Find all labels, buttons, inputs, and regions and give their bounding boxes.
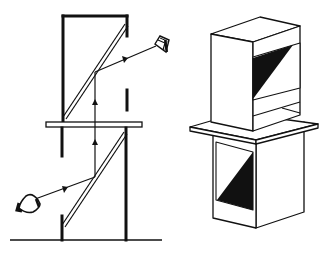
- diagram-canvas: Periscope mechanism: schematic cross-sec…: [0, 0, 335, 253]
- upper-box-left-face: [211, 34, 253, 131]
- arrow-lower-icon: [62, 186, 68, 193]
- right-isometric: [190, 17, 318, 228]
- periscope-diagram: [0, 0, 335, 253]
- left-schematic: [10, 16, 169, 240]
- arrow-vertical-lower-icon: [92, 139, 98, 145]
- separator-plate: [46, 122, 142, 127]
- upper-box: [211, 17, 300, 131]
- eye-lower-icon: [17, 195, 40, 213]
- eye-upper-icon: [155, 36, 169, 52]
- arrow-vertical-upper-icon: [92, 99, 98, 105]
